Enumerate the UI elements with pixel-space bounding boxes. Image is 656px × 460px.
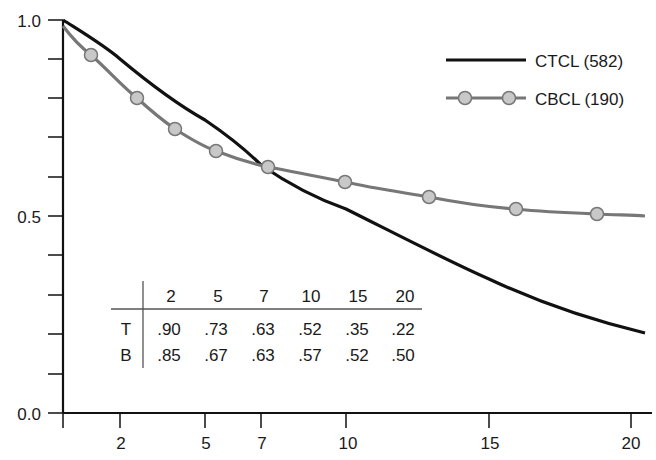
x-tick-label-5: 5 (201, 434, 210, 453)
table-cell: .22 (391, 320, 415, 339)
x-tick-label-7: 7 (257, 434, 266, 453)
x-tick-label-20: 20 (622, 434, 641, 453)
cbcl-marker (131, 92, 144, 105)
x-axis: 2 5 7 10 15 20 (63, 413, 652, 453)
table-row-b: B .85 .67 .63 .57 .52 .50 (120, 346, 414, 365)
table-cell: .63 (251, 346, 275, 365)
table-header-cell: 10 (302, 287, 321, 306)
table-cell: .35 (345, 320, 369, 339)
table-cell: .90 (157, 320, 181, 339)
table-header-row: 2 5 7 10 15 20 (166, 287, 414, 306)
inset-table: 2 5 7 10 15 20 T .90 .73 .63 .52 .35 .22… (111, 281, 422, 368)
legend: CTCL (582) CBCL (190) (446, 52, 624, 109)
table-cell: .52 (298, 320, 322, 339)
table-header-cell: 15 (349, 287, 368, 306)
cbcl-marker (591, 208, 604, 221)
table-header-cell: 20 (396, 287, 415, 306)
table-row-label: T (121, 320, 131, 339)
y-tick-label-1-0: 1.0 (17, 12, 41, 31)
legend-cbcl-marker-icon (459, 92, 472, 105)
table-cell: .50 (391, 346, 415, 365)
cbcl-marker (423, 191, 436, 204)
table-header-cell: 7 (259, 287, 268, 306)
legend-cbcl-label: CBCL (190) (535, 90, 624, 109)
table-cell: .57 (298, 346, 322, 365)
table-row-t: T .90 .73 .63 .52 .35 .22 (121, 320, 415, 339)
cbcl-marker (169, 123, 182, 136)
cbcl-marker (85, 49, 98, 62)
x-tick-label-2: 2 (116, 434, 125, 453)
table-header-cell: 5 (213, 287, 222, 306)
table-cell: .63 (251, 320, 275, 339)
legend-ctcl-label: CTCL (582) (535, 52, 623, 71)
survival-chart: 1.0 0.5 0.0 2 5 7 10 15 20 CTCL ( (0, 0, 656, 460)
y-axis: 1.0 0.5 0.0 (17, 12, 63, 424)
cbcl-markers (85, 49, 604, 221)
table-header-cell: 2 (166, 287, 175, 306)
y-tick-label-0-5: 0.5 (17, 208, 41, 227)
cbcl-marker (210, 145, 223, 158)
cbcl-marker (510, 203, 523, 216)
y-tick-label-0-0: 0.0 (17, 405, 41, 424)
table-cell: .67 (204, 346, 228, 365)
cbcl-marker (262, 161, 275, 174)
table-cell: .52 (345, 346, 369, 365)
x-tick-label-15: 15 (481, 434, 500, 453)
legend-cbcl-marker-icon (503, 92, 516, 105)
table-cell: .73 (204, 320, 228, 339)
cbcl-marker (339, 176, 352, 189)
x-tick-label-10: 10 (339, 434, 358, 453)
table-row-label: B (120, 346, 131, 365)
table-cell: .85 (157, 346, 181, 365)
